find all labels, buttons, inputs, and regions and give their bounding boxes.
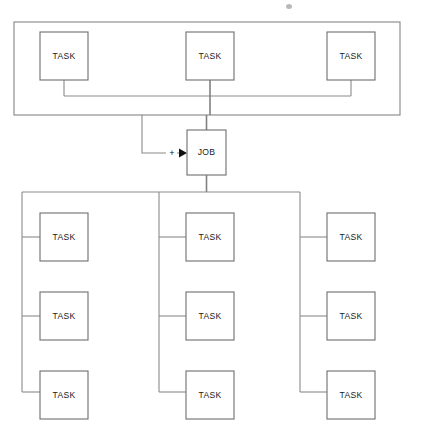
- task-label: TASK: [52, 390, 75, 400]
- output-task-m2[interactable]: TASK: [186, 292, 234, 340]
- task-label: TASK: [52, 51, 75, 61]
- task-label: TASK: [198, 51, 221, 61]
- task-label: TASK: [198, 390, 221, 400]
- output-task-r3[interactable]: TASK: [327, 371, 375, 419]
- task-label: TASK: [52, 232, 75, 242]
- output-task-l2[interactable]: TASK: [40, 292, 88, 340]
- task-label: TASK: [198, 311, 221, 321]
- task-label: TASK: [339, 311, 362, 321]
- output-task-m3[interactable]: TASK: [186, 371, 234, 419]
- job-node[interactable]: JOB: [187, 130, 226, 175]
- input-task-1[interactable]: TASK: [40, 32, 88, 80]
- diagram-canvas: TASK TASK TASK +: [0, 0, 424, 442]
- task-label: TASK: [339, 232, 362, 242]
- task-label: TASK: [339, 390, 362, 400]
- output-task-r2[interactable]: TASK: [327, 292, 375, 340]
- job-label: JOB: [198, 147, 216, 157]
- output-task-l3[interactable]: TASK: [40, 371, 88, 419]
- task-label: TASK: [198, 232, 221, 242]
- task-label: TASK: [339, 51, 362, 61]
- scan-speck-artifact: [286, 4, 292, 9]
- output-task-r1[interactable]: TASK: [327, 213, 375, 261]
- output-task-m1[interactable]: TASK: [186, 213, 234, 261]
- aggregation-section: + JOB: [142, 115, 226, 192]
- input-task-2[interactable]: TASK: [186, 32, 234, 80]
- diagram-svg: TASK TASK TASK +: [0, 0, 424, 442]
- plus-feed-line: [142, 115, 166, 153]
- input-task-3[interactable]: TASK: [327, 32, 375, 80]
- output-task-l1[interactable]: TASK: [40, 213, 88, 261]
- task-label: TASK: [52, 311, 75, 321]
- plus-operator-label: +: [169, 148, 174, 158]
- job-arrow-head: [179, 149, 187, 158]
- input-task-group: TASK TASK TASK: [14, 22, 400, 115]
- output-task-group: TASK TASK TASK TASK TASK TASK: [22, 192, 375, 419]
